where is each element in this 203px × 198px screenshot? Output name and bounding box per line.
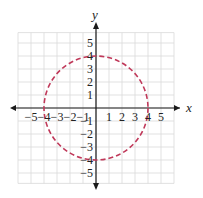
x-tick-label: −5 bbox=[25, 110, 38, 124]
x-tick-label: 4 bbox=[145, 110, 151, 124]
y-tick-label: 2 bbox=[87, 75, 93, 89]
y-tick-label: 3 bbox=[87, 62, 93, 76]
x-tick-labels: −5−4−3−2−112345 bbox=[25, 110, 164, 124]
arrow-up-icon bbox=[93, 22, 99, 29]
arrow-left-icon bbox=[10, 105, 16, 111]
x-tick-label: −4 bbox=[38, 110, 51, 124]
y-tick-label: −5 bbox=[80, 166, 93, 180]
y-tick-label: 5 bbox=[87, 36, 93, 50]
y-tick-label: −1 bbox=[80, 114, 93, 128]
x-tick-label: 1 bbox=[106, 110, 112, 124]
x-tick-label: −3 bbox=[51, 110, 64, 124]
x-axis-label: x bbox=[185, 100, 192, 115]
coordinate-plane: −5−4−3−2−112345 54321−1−2−3−4−5 x y bbox=[0, 0, 203, 198]
arrow-down-icon bbox=[93, 183, 99, 190]
y-tick-label: 1 bbox=[87, 88, 93, 102]
axes bbox=[10, 22, 180, 190]
y-tick-label: −3 bbox=[80, 140, 93, 154]
arrow-right-icon bbox=[174, 105, 180, 111]
y-tick-label: 4 bbox=[87, 49, 93, 63]
x-tick-label: 2 bbox=[119, 110, 125, 124]
x-tick-label: 5 bbox=[158, 110, 164, 124]
x-tick-label: 3 bbox=[132, 110, 138, 124]
y-axis-label: y bbox=[90, 7, 98, 22]
y-tick-label: −2 bbox=[80, 127, 93, 141]
x-tick-label: −2 bbox=[64, 110, 77, 124]
y-tick-label: −4 bbox=[80, 153, 93, 167]
